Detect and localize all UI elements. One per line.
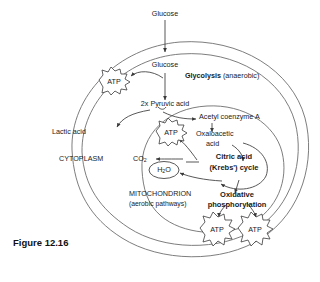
arrow-glycolysis-to-atp <box>131 72 163 78</box>
label-co2-text: CO <box>133 154 144 163</box>
figure-container: Glucose Glucose Glycolysis (anaerobic) 2… <box>0 0 320 282</box>
label-mitochondrion-sub: (aerobic pathways) <box>129 200 186 207</box>
arrow-pyruvic-to-lactic <box>117 110 150 127</box>
label-acetyl-coenzyme-a: Acetyl coenzyme A <box>199 113 260 121</box>
atp-label-oxphos-right: ATP <box>248 226 261 234</box>
label-glucose-cytoplasm: Glucose <box>152 61 178 69</box>
figure-caption: Figure 12.16 <box>13 238 68 248</box>
label-oxaloacetic-acid-line1: Oxaloacetic <box>196 130 234 138</box>
label-oxidative-phosphorylation-line1: Oxidative <box>220 191 254 199</box>
label-glucose-extracellular: Glucose <box>152 10 178 18</box>
label-oxaloacetic-acid-line2: acid <box>206 140 219 148</box>
arrow-krebs-to-h2o <box>180 173 222 181</box>
label-krebs-cycle-line1: Citric acid <box>216 153 252 161</box>
label-co2-subscript: 2 <box>144 157 147 163</box>
label-glycolysis-name: Glycolysis <box>185 71 221 80</box>
label-carbon-dioxide: CO2 <box>133 155 147 163</box>
label-mitochondrion: MITOCHONDRION <box>129 190 191 198</box>
label-glycolysis-note: (anaerobic) <box>223 71 259 80</box>
label-oxidative-phosphorylation-line2: phosphorylation <box>208 201 267 209</box>
label-cytoplasm: CYTOPLASM <box>59 155 103 163</box>
label-lactic-acid: Lactic acid <box>52 128 86 136</box>
label-glycolysis: Glycolysis (anaerobic) <box>185 72 259 80</box>
label-krebs-cycle-line2: (Krebs') cycle <box>210 164 259 172</box>
label-h2o-o: O <box>165 165 171 174</box>
label-water: H2O <box>157 166 171 174</box>
atp-label-glycolysis: ATP <box>107 78 120 86</box>
atp-label-oxphos-left: ATP <box>210 226 223 234</box>
arrow-krebs-to-atp <box>179 139 197 160</box>
label-pyruvic-acid: 2x Pyruvic acid <box>141 100 189 108</box>
atp-label-krebs: ATP <box>164 129 177 137</box>
